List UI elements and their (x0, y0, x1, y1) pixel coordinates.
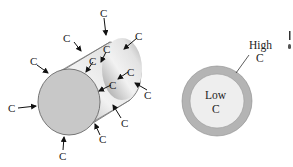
c-label: C (127, 66, 134, 78)
c-label: C (99, 133, 106, 145)
diffusion-figure: C C C C C C C C C C C C C High C Low C (0, 0, 293, 167)
c-label: C (30, 55, 37, 67)
c-label: C (144, 89, 151, 101)
high-c-label: C (256, 52, 264, 64)
cropped-edge-text (288, 31, 291, 49)
c-label: C (103, 43, 110, 55)
leader-line (236, 55, 249, 73)
cylinder-front-face (38, 69, 100, 135)
c-label: C (59, 150, 66, 162)
c-label: C (63, 32, 70, 44)
low-label: Low (205, 89, 227, 101)
c-label: C (100, 7, 107, 19)
c-label: C (121, 117, 128, 129)
c-label: C (8, 102, 15, 114)
c-label: C (135, 30, 142, 42)
high-label: High (249, 39, 272, 52)
cross-section: High C Low C (182, 39, 272, 136)
c-label: C (109, 79, 116, 91)
c-label: C (89, 55, 96, 67)
inner-core (190, 74, 244, 128)
low-c-label: C (212, 103, 220, 115)
